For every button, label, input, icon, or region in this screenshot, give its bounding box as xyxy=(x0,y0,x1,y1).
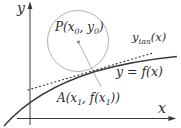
circle-center-label: P(x0, y0) xyxy=(55,21,104,33)
tangent-label-sub: tan xyxy=(139,37,151,46)
math-diagram: y x P(x0, y0) ytan(x) y = f(x) A(x1, f(x… xyxy=(0,0,181,128)
tangent-label-post: (x) xyxy=(151,30,166,44)
center-label-pre: P(x xyxy=(55,20,75,34)
point-label-post: )) xyxy=(111,91,120,105)
curve-label: y = f(x) xyxy=(116,66,163,79)
x-axis-label: x xyxy=(158,101,166,115)
tangent-point-label: A(x1, f(x1)) xyxy=(57,92,120,104)
center-point xyxy=(77,41,80,44)
tangent-label: ytan(x) xyxy=(132,32,166,44)
y-axis-label: y xyxy=(17,1,25,15)
center-label-post: ) xyxy=(99,20,104,34)
y-axis-arrow-icon xyxy=(28,2,33,10)
point-label-pre: A(x xyxy=(57,91,77,105)
x-axis-arrow-icon xyxy=(169,116,177,121)
center-label-mid: , y xyxy=(80,20,94,34)
point-label-mid: , f(x xyxy=(82,91,106,105)
